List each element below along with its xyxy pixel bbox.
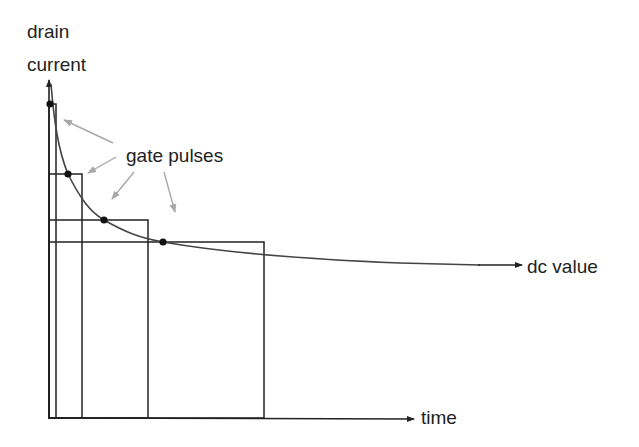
y-axis-label-line2: current	[27, 55, 86, 74]
x-axis-label: time	[421, 408, 457, 427]
callout-arrows	[64, 120, 175, 212]
sample-dot-2	[64, 170, 71, 177]
dc-value-label: dc value	[527, 257, 598, 276]
y-axis-label-line1: drain	[27, 22, 69, 41]
gate-pulse-3	[49, 220, 148, 418]
diagram-canvas	[0, 0, 639, 447]
callout-arrow-3	[112, 172, 134, 199]
callout-arrow-2	[88, 157, 116, 173]
gate-pulse-1	[49, 104, 56, 418]
sample-dot-1	[46, 100, 53, 107]
gate-pulses-label: gate pulses	[126, 146, 223, 165]
gate-pulse-2	[49, 174, 82, 418]
sample-dot-3	[100, 216, 107, 223]
callout-arrow-4	[164, 172, 175, 212]
drain-current-curve	[51, 84, 480, 265]
sample-dot-4	[159, 238, 166, 245]
callout-arrow-1	[64, 120, 113, 143]
